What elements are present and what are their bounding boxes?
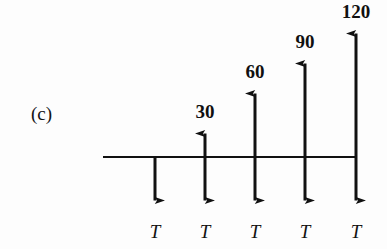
value-label-30: 30 bbox=[196, 101, 215, 123]
tension-label-3: T bbox=[250, 221, 261, 243]
tension-label-5: T bbox=[351, 221, 362, 243]
panel-label: (c) bbox=[31, 103, 52, 125]
tension-label-4: T bbox=[300, 221, 311, 243]
tension-label-1: T bbox=[150, 221, 161, 243]
force-diagram-figure: (c) 30 60 90 120 T T T T T bbox=[0, 0, 387, 249]
value-label-90: 90 bbox=[296, 31, 315, 53]
value-label-120: 120 bbox=[342, 1, 371, 23]
value-label-60: 60 bbox=[246, 61, 265, 83]
tension-label-2: T bbox=[200, 221, 211, 243]
diagram-canvas bbox=[0, 0, 387, 249]
